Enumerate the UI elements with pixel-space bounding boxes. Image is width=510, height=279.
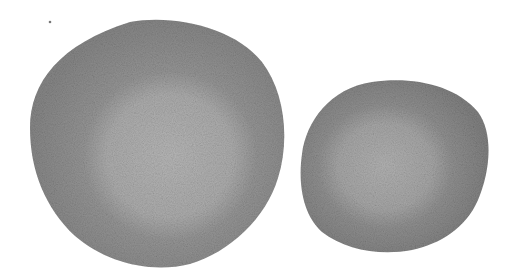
small-blob	[301, 80, 489, 252]
large-blob	[30, 20, 284, 268]
speck	[49, 21, 52, 24]
blobs-illustration	[0, 0, 510, 279]
image-canvas	[0, 0, 510, 279]
